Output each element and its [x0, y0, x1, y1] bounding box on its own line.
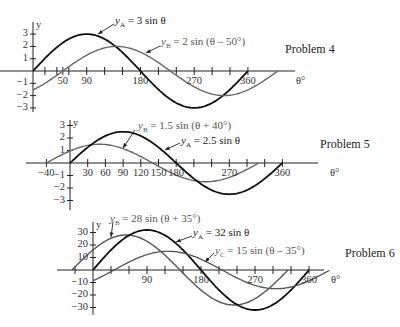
tick-label: 20 [78, 239, 89, 250]
tick-label: 2 [60, 132, 65, 143]
tick-label: 90 [81, 76, 92, 87]
tick-label: −1 [17, 77, 28, 88]
tick-label: 150 [151, 168, 167, 179]
tick-label: 180 [133, 76, 149, 87]
tick-label: y [73, 118, 78, 129]
tick-label: y [96, 220, 101, 231]
tick-label: −3 [54, 195, 65, 206]
tick-label: 60 [100, 168, 111, 179]
tick-label: 270 [186, 76, 202, 87]
p4-title: Problem 4 [285, 42, 335, 57]
tick-label: 120 [133, 168, 149, 179]
tick-label: 180 [168, 168, 184, 179]
tick-label: θ° [296, 76, 305, 87]
tick-label: 270 [221, 168, 237, 179]
tick-label: 90 [118, 168, 129, 179]
p6-ya-label: yA = 32 sin θ [193, 227, 249, 241]
p6-title: Problem 6 [345, 246, 395, 261]
tick-label: −20 [72, 289, 88, 300]
tick-label: 3 [60, 120, 65, 131]
p5-title: Problem 5 [320, 137, 370, 152]
tick-label: 270 [247, 275, 263, 286]
p6-yb-label: yB = 28 sin (θ + 35°) [110, 213, 200, 227]
tick-label: −10 [72, 277, 88, 288]
tick-label: 30 [78, 227, 89, 238]
tick-label: 1 [60, 145, 65, 156]
tick-label: −30 [72, 302, 88, 313]
p5-ya-label: yA = 2.5 sin θ [181, 135, 240, 149]
tick-label: 1 [23, 53, 28, 64]
tick-label: θ° [331, 275, 340, 286]
tick-label: 10 [78, 252, 89, 263]
tick-label: 180 [193, 275, 209, 286]
tick-label: −40 [38, 168, 54, 179]
tick-label: 360 [301, 275, 317, 286]
tick-label: 30 [82, 168, 93, 179]
p6-yc-label: yC = 15 sin (θ – 35°) [215, 245, 305, 259]
p4-ya-label: yA = 3 sin θ [115, 15, 166, 29]
tick-label: −2 [54, 182, 65, 193]
tick-label: 3 [23, 28, 28, 39]
p4-yb-label: yB = 2 sin (θ – 50°) [161, 36, 245, 50]
tick-label: θ° [330, 168, 339, 179]
tick-label: 90 [142, 275, 153, 286]
tick-label: y [36, 20, 41, 31]
p5-yb-label: yB = 1.5 sin (θ + 40°) [138, 120, 231, 134]
tick-label: 360 [275, 168, 291, 179]
tick-label: 360 [240, 76, 256, 87]
tick-label: −3 [17, 102, 28, 113]
tick-label: 50 [58, 76, 69, 87]
tick-label: 2 [23, 40, 28, 51]
tick-label: −2 [17, 90, 28, 101]
tick-label: −1 [54, 170, 65, 181]
